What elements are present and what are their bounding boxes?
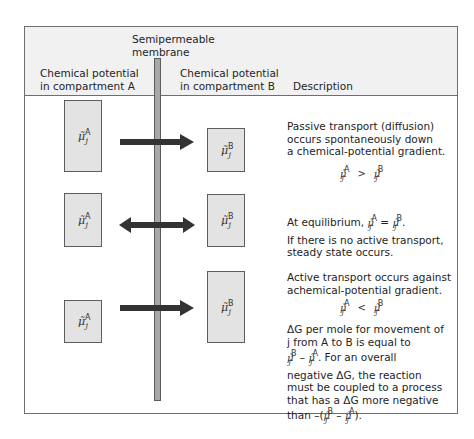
mu-a-symbol: μ̃Aj — [78, 128, 88, 145]
desc-line: that has a ΔG more negative — [287, 394, 444, 407]
column-header-b: Chemical potential in compartment B — [180, 67, 279, 92]
col-a-line2: in compartment A — [40, 80, 139, 93]
description-row3: Active transport occurs against achemica… — [287, 271, 451, 296]
column-header-a: Chemical potential in compartment A — [40, 67, 139, 92]
desc-line: must be coupled to a process — [287, 381, 444, 394]
potential-box-a-row2: μ̃Aj — [64, 193, 102, 247]
desc-line: ΔG per mole for movement of — [287, 323, 444, 336]
potential-box-a-row3: μ̃Aj — [64, 300, 102, 343]
relation-row3: μ̃jA<μ̃jB — [340, 299, 383, 316]
desc-line: j from A to B is equal to — [287, 336, 444, 349]
membrane-label-line1: Semipermeable — [132, 33, 215, 46]
right-arrow-icon — [120, 300, 194, 316]
description-row2: At equilibrium, μ̃jA = μ̃jB. If there is… — [287, 213, 444, 259]
potential-box-b-row2: μ̃Bj — [207, 194, 245, 247]
membrane-label: Semipermeable membrane — [132, 33, 215, 58]
mu-b-symbol: μ̃Bj — [221, 212, 231, 229]
desc-line: achemical-potential gradient. — [287, 284, 451, 297]
membrane-label-line2: membrane — [132, 46, 215, 59]
desc-line: μ̃jB – μ̃jA. For an overall — [287, 348, 444, 369]
desc-line: steady state occurs. — [287, 246, 444, 259]
description-row1: Passive transport (diffusion) occurs spo… — [287, 120, 445, 158]
col-a-line1: Chemical potential — [40, 67, 139, 80]
potential-box-b-row3: μ̃Bj — [207, 271, 245, 343]
col-b-line1: Chemical potential — [180, 67, 279, 80]
desc-line: Passive transport (diffusion) — [287, 120, 445, 133]
mu-a-symbol: μ̃Aj — [78, 212, 88, 229]
col-b-line2: in compartment B — [180, 80, 279, 93]
relation-row1: μ̃jA>μ̃jB — [340, 165, 383, 182]
desc-line: Active transport occurs against — [287, 271, 451, 284]
right-arrow-icon — [120, 134, 194, 150]
delta-g-explanation: ΔG per mole for movement of j from A to … — [287, 323, 444, 427]
mu-a-symbol: μ̃Aj — [78, 313, 88, 330]
desc-line: If there is no active transport, — [287, 234, 444, 247]
desc-line: occurs spontaneously down — [287, 133, 445, 146]
potential-box-a-row1: μ̃Aj — [64, 100, 102, 172]
desc-line: negative ΔG, the reaction — [287, 369, 444, 382]
double-arrow-icon — [119, 217, 195, 233]
column-header-description: Description — [293, 80, 353, 93]
potential-box-b-row1: μ̃Bj — [207, 128, 245, 172]
desc-line: a chemical-potential gradient. — [287, 145, 445, 158]
header-band: Semipermeable membrane Chemical potentia… — [25, 27, 457, 96]
mu-b-symbol: μ̃Bj — [221, 142, 231, 159]
mu-b-symbol: μ̃Bj — [221, 299, 231, 316]
desc-line: than –(μ̃jB – μ̃jA). — [287, 406, 444, 427]
desc-line: At equilibrium, μ̃jA = μ̃jB. — [287, 213, 444, 234]
